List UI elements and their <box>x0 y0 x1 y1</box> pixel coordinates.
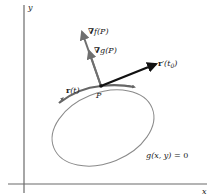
tangent-label: r′(t0) <box>158 58 177 69</box>
grad-g-arg: (P) <box>105 46 117 55</box>
grad-f-label: ∇f(P) <box>88 26 109 36</box>
constraint-rhs: = 0 <box>171 151 188 160</box>
curve-t: (t) <box>70 86 79 95</box>
y-axis-label: y <box>27 3 33 12</box>
point-p-label: P <box>95 91 102 100</box>
grad-g-label: ∇g(P) <box>94 45 117 55</box>
constraint-curve <box>41 76 166 181</box>
curve-param-label: r(t) <box>66 85 80 95</box>
grad-f-arg: (P) <box>97 27 109 36</box>
tangent-close: ) <box>173 59 177 68</box>
constraint-args: (x, y) <box>151 151 171 160</box>
diagram-canvas: y x ∇f(P) ∇g(P) r′(t0) r(t) P g(x, y) = … <box>0 0 216 195</box>
x-axis-label: x <box>202 187 207 195</box>
grad-g-vector <box>89 51 101 86</box>
tangent-vector <box>101 64 156 86</box>
constraint-label: g(x, y) = 0 <box>146 151 188 160</box>
point-p <box>99 84 103 88</box>
